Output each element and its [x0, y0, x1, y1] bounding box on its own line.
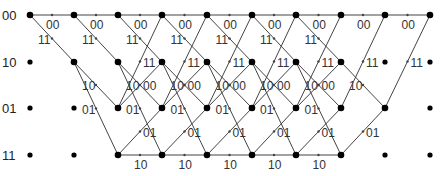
- trellis-diagram: 0011001110010011100111000110001110011100…: [0, 0, 446, 176]
- edge-output-label: 10: [179, 158, 193, 172]
- edge-output-label: 00: [179, 18, 193, 32]
- edge-midpoint: [95, 14, 97, 16]
- edge-midpoint: [362, 14, 364, 16]
- state-node: [382, 12, 389, 19]
- edge-output-label: 00: [233, 79, 247, 93]
- edge-output-label: 10: [268, 158, 282, 172]
- edge-output-label: 00: [357, 18, 371, 32]
- trellis-canvas: 0011001110010011100111000110001110011100…: [0, 0, 446, 176]
- edge-midpoint: [362, 60, 364, 62]
- edge-midpoint: [95, 37, 97, 39]
- edge-midpoint: [273, 37, 275, 39]
- edge-midpoint: [228, 84, 230, 86]
- state-node: [249, 59, 256, 66]
- state-node: [204, 152, 211, 159]
- state-node: [249, 12, 256, 19]
- edge-midpoint: [273, 154, 275, 156]
- state-node: [427, 12, 434, 19]
- state-node: [293, 59, 300, 66]
- edge-output-label: 11: [82, 33, 95, 47]
- edge-midpoint: [183, 37, 185, 39]
- state-node: [71, 105, 76, 110]
- edge-midpoint: [228, 14, 230, 16]
- edge-output-label: 01: [82, 103, 96, 117]
- edge-output-label: 11: [277, 56, 290, 70]
- edge-output-label: 01: [143, 126, 157, 140]
- edge-output-label: 10: [134, 158, 148, 172]
- edge-output-label: 10: [224, 158, 238, 172]
- state-node: [249, 152, 256, 159]
- edge-output-label: 10: [82, 79, 96, 93]
- state-node: [427, 59, 432, 64]
- edge-midpoint: [183, 60, 185, 62]
- edge-midpoint: [273, 14, 275, 16]
- state-node: [71, 59, 78, 66]
- state-node: [293, 12, 300, 19]
- edge-output-label: 01: [305, 103, 319, 117]
- state-node: [115, 105, 122, 112]
- edge-midpoint: [317, 14, 319, 16]
- state-node: [427, 152, 432, 157]
- state-node: [204, 59, 211, 66]
- state-label: 10: [2, 55, 16, 70]
- state-node: [71, 152, 76, 157]
- edge-midpoint: [139, 37, 141, 39]
- state-node: [27, 12, 34, 19]
- state-node: [159, 12, 166, 19]
- state-label: 01: [2, 101, 16, 116]
- edge-midpoint: [139, 60, 141, 62]
- edge-output-label: 01: [233, 126, 247, 140]
- edge-output-label: 00: [90, 18, 104, 32]
- edge-output-label: 00: [224, 18, 238, 32]
- edge-midpoint: [51, 37, 53, 39]
- state-node: [338, 59, 345, 66]
- edge-midpoint: [139, 154, 141, 156]
- edge-output-label: 11: [216, 33, 229, 47]
- edge-output-label: 11: [411, 56, 424, 70]
- edge-midpoint: [362, 130, 364, 132]
- edge-output-label: 01: [260, 103, 274, 117]
- state-node: [27, 105, 32, 110]
- edge-midpoint: [228, 154, 230, 156]
- state-node: [249, 105, 256, 112]
- edge-midpoint: [228, 60, 230, 62]
- state-node: [427, 105, 432, 110]
- state-label: 00: [2, 8, 16, 23]
- edge-output-label: 11: [260, 33, 273, 47]
- state-label: 11: [2, 148, 16, 163]
- state-node: [293, 105, 300, 112]
- edge-output-label: 01: [171, 103, 185, 117]
- state-node: [338, 152, 345, 159]
- edge-midpoint: [183, 84, 185, 86]
- state-node: [159, 59, 166, 66]
- edge-output-label: 11: [322, 56, 335, 70]
- edge-output-label: 11: [366, 56, 379, 70]
- edge-output-label: 11: [143, 56, 156, 70]
- state-node: [159, 105, 166, 112]
- edge-midpoint: [317, 60, 319, 62]
- edge-output-label: 11: [126, 33, 139, 47]
- edge-midpoint: [317, 154, 319, 156]
- edge-output-label: 00: [188, 79, 202, 93]
- state-node: [159, 152, 166, 159]
- edge-midpoint: [273, 60, 275, 62]
- edge-output-label: 10: [313, 158, 327, 172]
- state-node: [382, 105, 389, 112]
- edge-output-label: 11: [305, 33, 318, 47]
- edge-midpoint: [273, 84, 275, 86]
- state-node: [204, 105, 211, 112]
- edge-output-label: 00: [143, 79, 157, 93]
- edge-output-label: 00: [277, 79, 291, 93]
- edge-midpoint: [406, 14, 408, 16]
- edge-midpoint: [228, 37, 230, 39]
- edge-output-label: 01: [216, 103, 230, 117]
- edge-midpoint: [139, 130, 141, 132]
- edge-midpoint: [273, 130, 275, 132]
- state-node: [115, 12, 122, 19]
- edge-output-label: 00: [313, 18, 327, 32]
- state-node: [382, 152, 387, 157]
- edge-output-label: 00: [402, 18, 416, 32]
- state-node: [338, 105, 345, 112]
- edge-midpoint: [228, 130, 230, 132]
- state-node: [27, 152, 32, 157]
